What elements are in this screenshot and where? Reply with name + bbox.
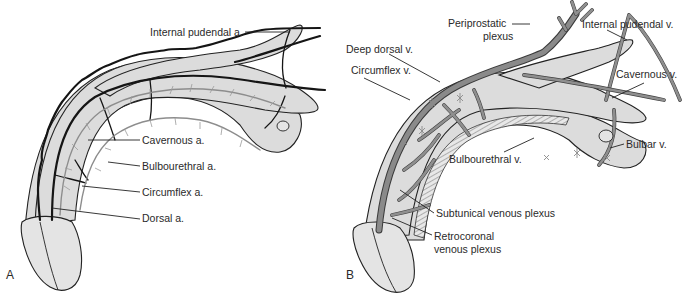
label-cavernous-artery: Cavernous a. [142, 134, 204, 146]
label-cavernous-vein: Cavernous v. [616, 68, 677, 80]
label-bulbourethral-artery: Bulbourethral a. [142, 160, 216, 172]
label-internal-pudendal-artery: Internal pudendal a. [150, 26, 243, 38]
leader-bulbourethral-v [504, 138, 534, 152]
leader-circumflex-v [364, 78, 410, 100]
label-circumflex-vein: Circumflex v. [351, 64, 411, 76]
panel-letter-b: B [346, 268, 354, 282]
panel-letter-a: A [6, 268, 14, 282]
figure-b-venous: Periprostatic plexus Internal pudendal v… [344, 0, 689, 297]
label-venous-plexus: venous plexus [434, 243, 501, 255]
label-bulbourethral-vein: Bulbourethral v. [449, 153, 522, 165]
leader-circumflex [82, 186, 140, 192]
label-periprostatic: Periprostatic [448, 17, 506, 29]
label-circumflex-artery: Circumflex a. [142, 186, 203, 198]
figure-a-arterial: Internal pudendal a. Cavernous a. Bulbou… [0, 0, 345, 297]
label-bulbar-vein: Bulbar v. [626, 138, 667, 150]
label-dorsal-artery: Dorsal a. [142, 212, 184, 224]
arterial-anatomy-illustration [0, 0, 345, 297]
label-deep-dorsal-vein: Deep dorsal v. [346, 43, 413, 55]
bulb-glyph-b [599, 130, 613, 142]
label-subtunical-plexus: Subtunical venous plexus [436, 207, 555, 219]
glans [21, 216, 81, 290]
label-plexus: plexus [483, 30, 513, 42]
leader-bulbourethral [108, 162, 140, 166]
label-internal-pudendal-vein: Internal pudendal v. [582, 18, 673, 30]
label-retrocoronal: Retrocoronal [434, 230, 494, 242]
bulb-glyph [277, 121, 289, 131]
